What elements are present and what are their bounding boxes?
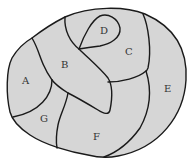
region-label-g: G <box>40 113 48 124</box>
region-label-a: A <box>21 75 30 86</box>
region-label-b: B <box>61 59 68 70</box>
region-label-c: C <box>125 46 133 57</box>
region-label-e: E <box>164 83 171 94</box>
region-label-f: F <box>93 131 100 142</box>
region-map-diagram: A B C D E F G <box>0 0 193 164</box>
region-label-d: D <box>100 25 108 36</box>
